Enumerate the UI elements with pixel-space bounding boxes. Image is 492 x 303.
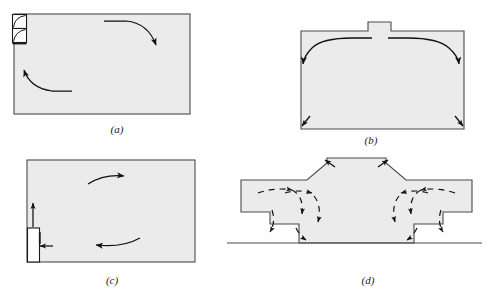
wall-unit-upper-box xyxy=(13,15,27,29)
panel-c: (c) xyxy=(27,160,195,287)
panel-c-caption: (c) xyxy=(106,274,119,287)
wall-unit-lower-box xyxy=(13,29,27,43)
figure-root: (a) (b) xyxy=(0,0,492,303)
panel-b-room-outline xyxy=(301,22,464,129)
panel-d-caption: (d) xyxy=(362,274,375,287)
panel-d: (d) xyxy=(227,158,482,287)
panel-c-room-outline xyxy=(27,160,195,262)
panel-a-wall-unit xyxy=(13,15,27,44)
panel-a-caption: (a) xyxy=(111,123,124,136)
panel-b-caption: (b) xyxy=(365,134,378,147)
four-panel-airflow-figure: (a) (b) xyxy=(0,0,492,303)
panel-d-building-outline xyxy=(241,158,472,243)
panel-a: (a) xyxy=(13,14,191,136)
panel-c-floor-heater xyxy=(28,228,40,262)
panel-b: (b) xyxy=(301,22,464,147)
panel-a-room-outline xyxy=(14,14,190,114)
